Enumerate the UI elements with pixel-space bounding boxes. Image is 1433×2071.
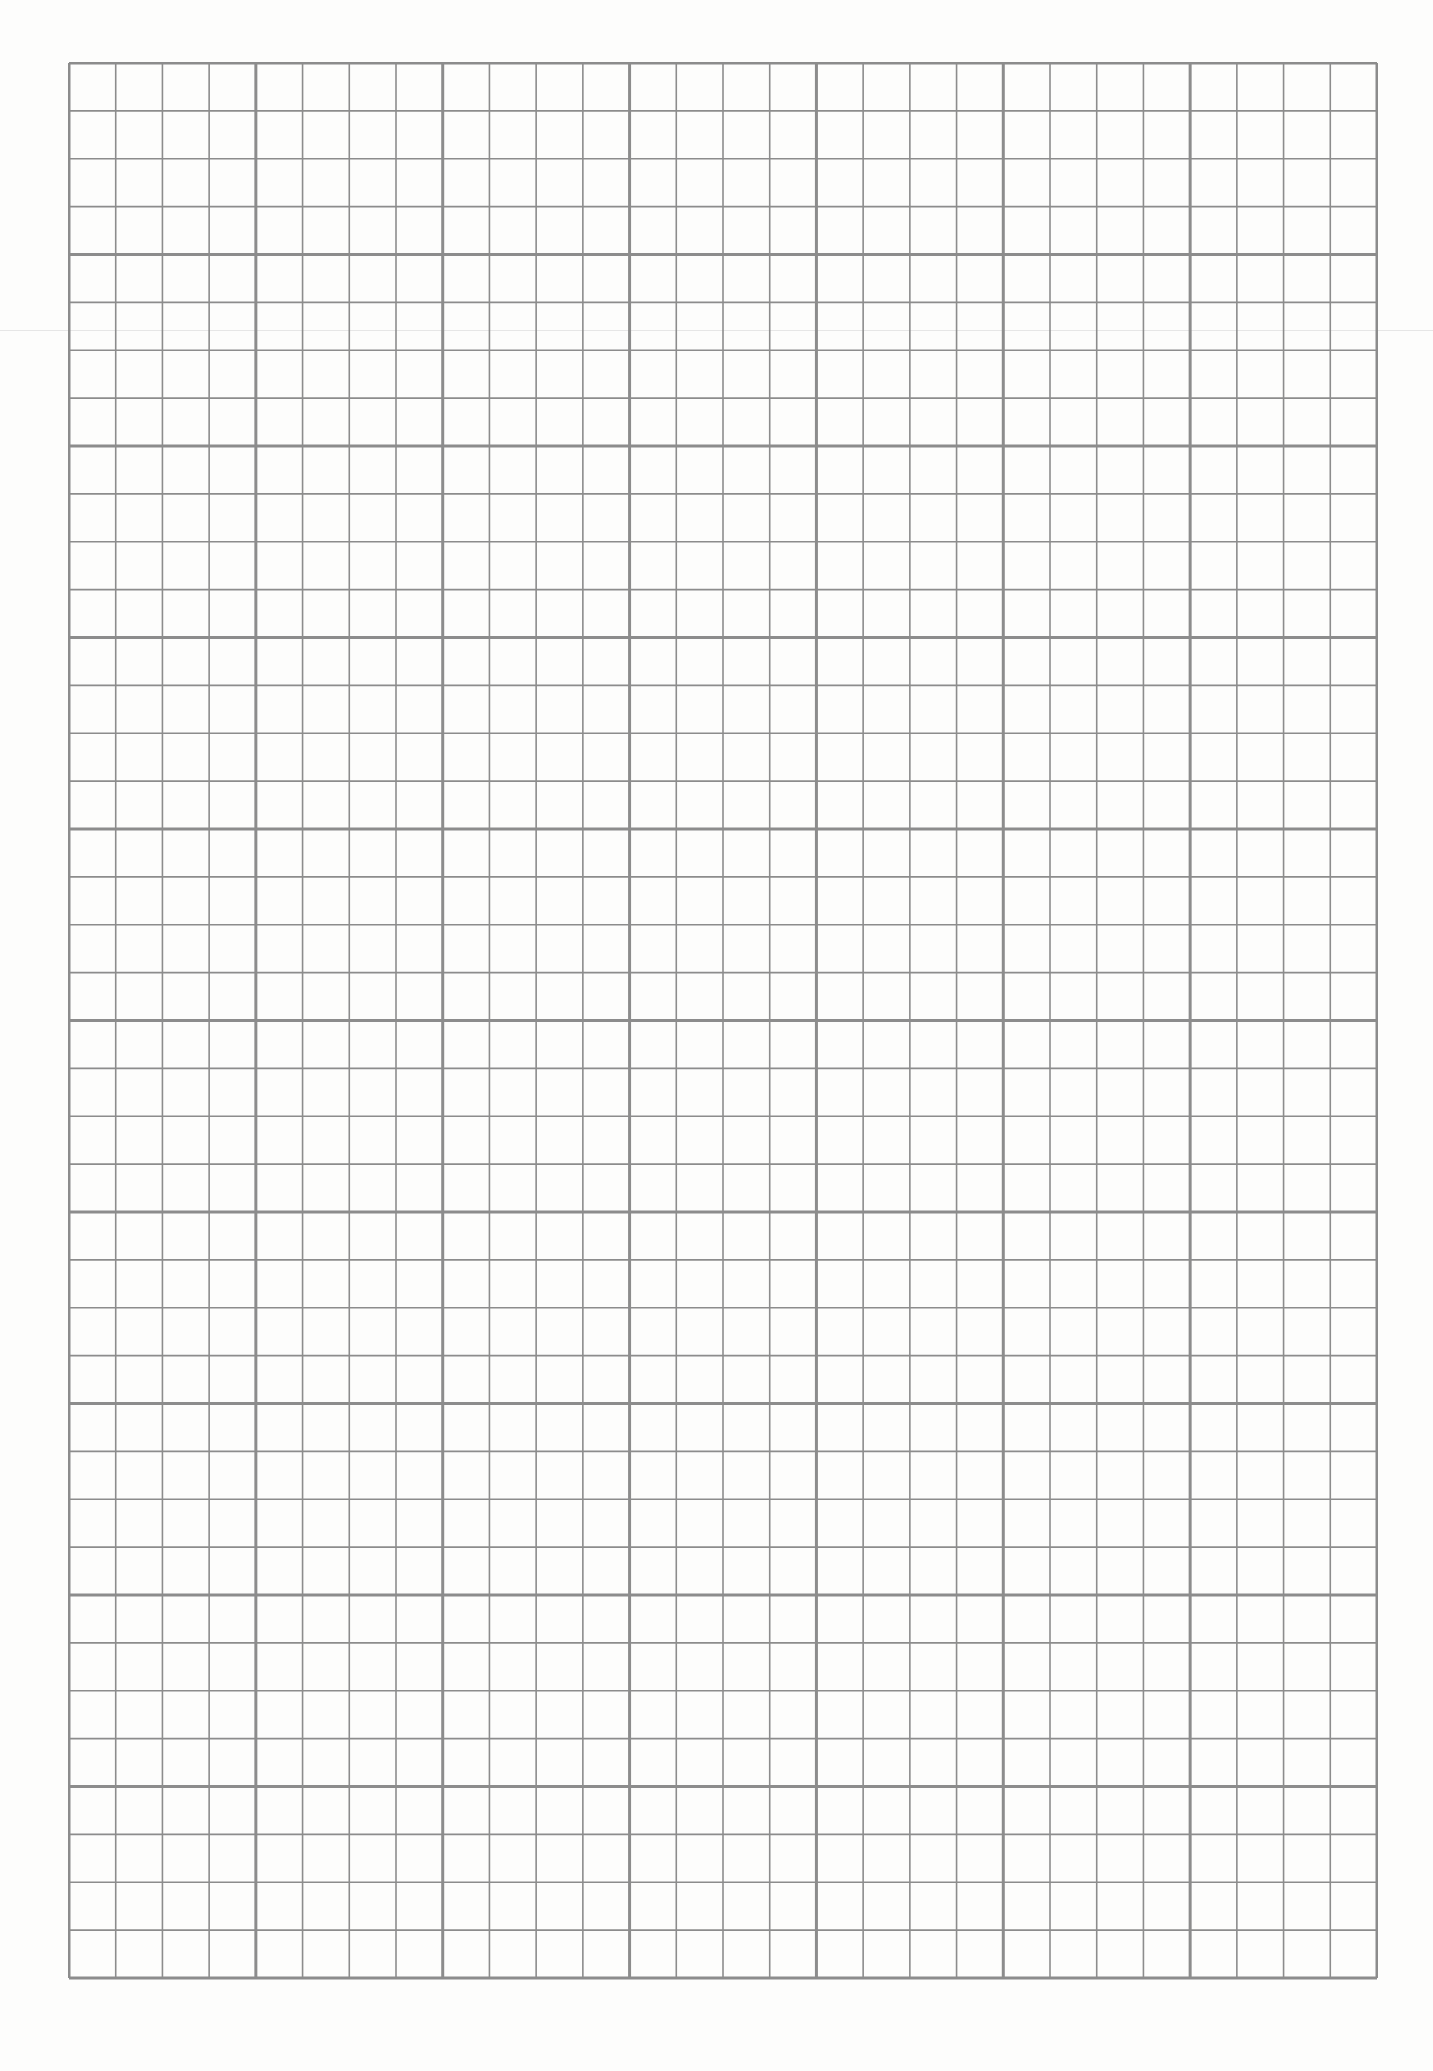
graph-paper-grid	[68, 62, 1378, 1980]
